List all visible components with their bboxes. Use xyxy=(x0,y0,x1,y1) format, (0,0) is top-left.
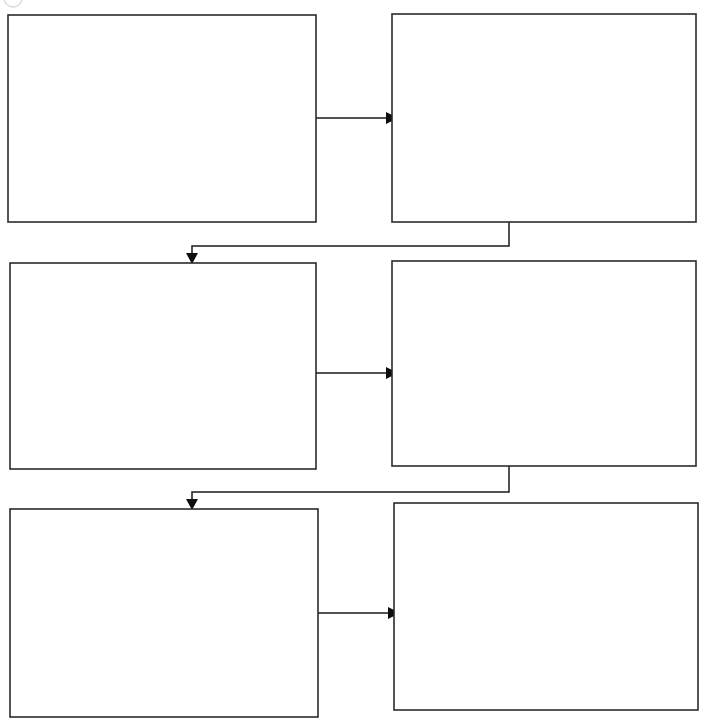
flowchart-svg xyxy=(0,0,708,724)
connector-box3-to-box4[interactable] xyxy=(314,363,400,383)
node-box-5[interactable] xyxy=(10,509,318,717)
node-box-2[interactable] xyxy=(392,14,696,222)
connector-box2-to-box3[interactable] xyxy=(184,220,516,266)
node-box-1[interactable] xyxy=(8,15,316,222)
diagram-canvas xyxy=(0,0,708,724)
node-box-3[interactable] xyxy=(10,263,316,469)
connector-box5-to-box6[interactable] xyxy=(316,603,402,623)
connector-box1-to-box2[interactable] xyxy=(314,108,400,128)
node-box-6[interactable] xyxy=(394,503,698,710)
corner-arc-icon xyxy=(4,0,22,7)
node-box-4[interactable] xyxy=(392,261,696,466)
